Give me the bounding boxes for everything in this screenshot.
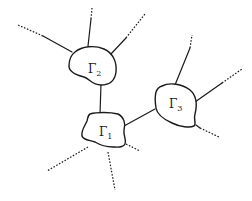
edge-gamma2-gamma1 [100,84,101,114]
node-gamma1: Γ1 [82,113,126,148]
node-gamma2: Γ2 [69,47,116,85]
edge-gamma1-gamma3 [124,109,155,126]
region-graph-diagram: Γ2 Γ1 Γ3 [0,0,252,201]
gamma1-stubs [47,144,140,190]
node-gamma3: Γ3 [155,84,196,127]
